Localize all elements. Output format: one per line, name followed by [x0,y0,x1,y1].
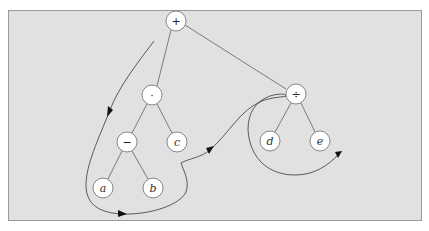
edge-plus-divide [185,25,286,89]
node-minus: − [117,132,137,152]
traversal-path [86,41,342,217]
edge-divide-d [275,103,291,132]
arrowhead-icon [118,210,127,217]
edge-minus-a [108,151,122,179]
node-label: + [171,15,180,28]
node-plus: + [166,11,186,31]
tree-edges [108,25,315,179]
node-divide: ÷ [286,84,306,104]
node-e: e [310,131,330,151]
edge-times-c [157,104,172,133]
edge-divide-e [301,103,315,132]
node-label: a [100,182,107,195]
edge-times-minus [132,104,147,133]
arrowhead-icon [206,146,214,154]
node-label: − [122,136,131,149]
traversal-curve [86,41,338,214]
node-a: a [93,178,113,198]
node-label: · [150,89,154,102]
node-label: c [174,136,180,149]
node-label: e [317,135,324,148]
node-label: ÷ [291,88,300,101]
tree-nodes: + · − c a b ÷ d [93,11,330,198]
node-b: b [143,178,163,198]
edge-minus-b [132,151,148,179]
node-label: d [266,135,273,148]
node-label: b [149,182,156,195]
edge-plus-times [157,30,171,86]
node-c: c [167,132,187,152]
node-times: · [142,85,162,105]
node-d: d [260,131,280,151]
arrowhead-icon [107,106,113,117]
expression-tree-diagram: + · − c a b ÷ d [0,0,429,231]
